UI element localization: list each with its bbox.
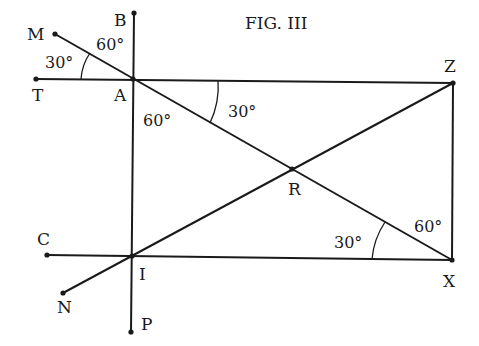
angle-label-x-left: 30°: [334, 233, 362, 252]
label-x: X: [443, 271, 456, 291]
angle-label-a-right: 30°: [228, 102, 256, 121]
point-m: [52, 31, 57, 36]
point-t: [33, 76, 38, 81]
figure-title: FIG. III: [245, 13, 307, 33]
point-i: [129, 253, 134, 258]
label-a: A: [113, 85, 127, 105]
label-b: B: [114, 10, 127, 30]
angle-arc-a-right: [210, 80, 218, 123]
point-z: [450, 80, 455, 85]
point-r: [289, 166, 294, 171]
line-bp: [131, 13, 134, 332]
label-i: I: [139, 264, 146, 284]
geometry-figure: FIG. III B M T A Z R C I X N P 30° 60° 6…: [0, 0, 479, 346]
point-c: [44, 252, 49, 257]
angle-label-x-upper: 60°: [414, 217, 442, 236]
line-zx: [452, 83, 453, 260]
angle-arc-x-left: [372, 222, 385, 259]
point-x: [449, 257, 454, 262]
point-n: [60, 290, 65, 295]
label-n: N: [57, 297, 72, 317]
point-p: [128, 329, 133, 334]
angle-label-a-lower: 60°: [143, 111, 171, 130]
angle-label-mab: 60°: [96, 35, 124, 54]
point-b: [131, 10, 136, 15]
label-c: C: [37, 229, 50, 249]
angle-arc-tam: [81, 53, 90, 79]
label-z: Z: [444, 56, 456, 76]
line-nz: [63, 83, 453, 293]
label-p: P: [141, 314, 152, 334]
label-r: R: [288, 179, 302, 199]
line-tz: [36, 79, 453, 83]
point-a: [130, 76, 135, 81]
line-mx: [55, 34, 452, 260]
angle-label-tam: 30°: [45, 53, 73, 72]
label-m: M: [27, 24, 44, 44]
line-cx: [47, 255, 452, 260]
label-t: T: [32, 85, 44, 105]
